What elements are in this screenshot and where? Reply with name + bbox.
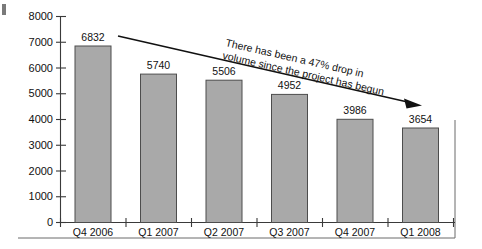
y-tick-label: 7000 [29,36,53,48]
y-tick-label: 0 [47,216,53,228]
y-tick-label: 1000 [29,190,53,202]
category-label: Q4 2006 [73,226,113,238]
bar-q2-2007 [206,80,242,222]
y-tick-label: 3000 [29,139,53,151]
bar-q1-2008 [403,128,439,223]
x-axis-category-labels: Q4 2006 Q1 2007 Q2 2007 Q3 2007 Q4 2007 … [73,226,441,238]
y-tick-label: 4000 [29,113,53,125]
chart-canvas: 0 1000 2000 3000 4000 5000 6000 7000 800… [0,0,482,249]
y-tick-label: 6000 [29,62,53,74]
y-tick-label: 8000 [29,10,53,22]
category-label: Q1 2007 [138,226,178,238]
y-tick-label: 5000 [29,87,53,99]
bar-q4-2006 [75,46,111,223]
arrowhead [404,99,422,109]
category-label: Q3 2007 [269,226,309,238]
bar-series [75,46,439,223]
bar-q4-2007 [337,119,373,222]
category-label: Q4 2007 [335,226,375,238]
value-label: 3986 [343,104,367,116]
y-tick-label: 2000 [29,165,53,177]
y-axis-tick-labels: 0 1000 2000 3000 4000 5000 6000 7000 800… [29,10,53,228]
value-label: 3654 [409,113,433,125]
value-label: 5740 [147,59,171,71]
bar-chart-figure: 0 1000 2000 3000 4000 5000 6000 7000 800… [0,0,482,249]
value-label: 6832 [81,31,105,43]
value-label: 5506 [212,65,236,77]
scan-edge-artifact [2,4,6,15]
category-label: Q1 2008 [400,226,440,238]
trend-annotation: There has been a 47% drop in volume sinc… [222,36,389,97]
bar-q3-2007 [272,94,308,222]
category-label: Q2 2007 [204,226,244,238]
bar-q1-2007 [141,74,177,222]
value-label: 4952 [278,79,302,91]
